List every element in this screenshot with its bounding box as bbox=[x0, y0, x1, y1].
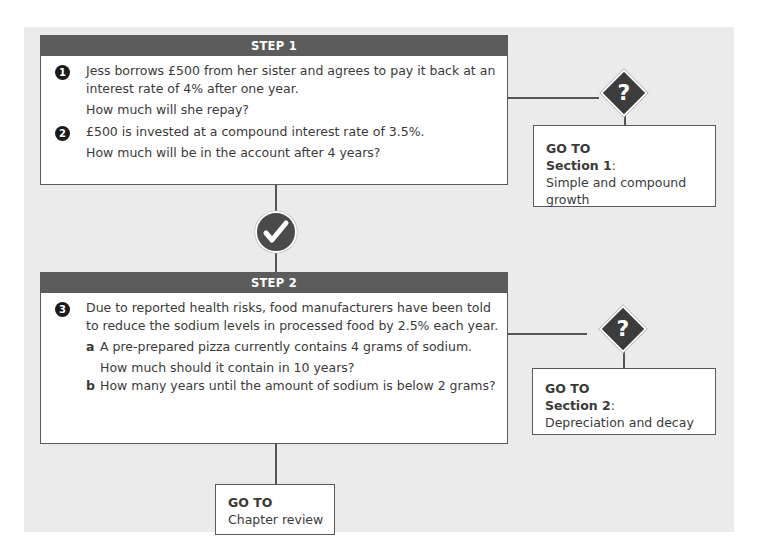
goto-section-title: Depreciation and decay bbox=[545, 414, 713, 431]
question-3-part-a: aA pre-prepared pizza currently contains… bbox=[86, 338, 504, 356]
part-a-prompt: How much should it contain in 10 years? bbox=[86, 359, 504, 377]
goto-label: GO TO bbox=[545, 380, 713, 397]
goto-section2-text: GO TO Section 2: Depreciation and decay bbox=[545, 380, 713, 431]
part-b-text: How many years until the amount of sodiu… bbox=[100, 378, 496, 393]
step1-box: STEP 1 1 Jess borrows £500 from her sist… bbox=[40, 35, 508, 185]
goto-label: GO TO bbox=[228, 494, 333, 511]
question-1-line-1: Jess borrows £500 from her sister and ag… bbox=[86, 62, 501, 80]
goto-section-title-line-2: growth bbox=[546, 191, 711, 208]
step2-header: STEP 2 bbox=[41, 273, 507, 293]
chapter-review-title: Chapter review bbox=[228, 511, 333, 528]
goto-label: GO TO bbox=[546, 140, 711, 157]
goto-section1-box[interactable]: GO TO Section 1: Simple and compound gro… bbox=[533, 125, 716, 207]
question-3-text: Due to reported health risks, food manuf… bbox=[86, 299, 504, 395]
goto-section-name: Section 1 bbox=[546, 158, 612, 173]
question-2-line-1: £500 is invested at a compound interest … bbox=[86, 123, 501, 141]
question-2-badge: 2 bbox=[55, 126, 70, 141]
question-2-text: £500 is invested at a compound interest … bbox=[86, 123, 501, 162]
question-1-badge: 1 bbox=[55, 65, 70, 80]
step2-box: STEP 2 3 Due to reported health risks, f… bbox=[40, 272, 508, 444]
part-a-text: A pre-prepared pizza currently contains … bbox=[100, 339, 472, 354]
check-mark-icon bbox=[255, 211, 297, 253]
question-2-prompt: How much will be in the account after 4 … bbox=[86, 144, 501, 162]
goto-section2-box[interactable]: GO TO Section 2: Depreciation and decay bbox=[532, 368, 716, 435]
question-mark-icon: ? bbox=[601, 307, 645, 351]
connector-step2-to-diamond2 bbox=[507, 333, 587, 335]
goto-colon: : bbox=[612, 158, 616, 173]
goto-section-title-line-1: Simple and compound bbox=[546, 174, 711, 191]
question-3-part-b: bHow many years until the amount of sodi… bbox=[86, 377, 504, 395]
connector-step2-to-final bbox=[275, 443, 277, 485]
question-3-badge: 3 bbox=[55, 302, 70, 317]
question-1-prompt: How much will she repay? bbox=[86, 101, 501, 119]
goto-chapter-review-text: GO TO Chapter review bbox=[228, 494, 333, 528]
goto-section-name: Section 2 bbox=[545, 398, 611, 413]
goto-colon: : bbox=[611, 398, 615, 413]
goto-section1-text: GO TO Section 1: Simple and compound gro… bbox=[546, 140, 711, 208]
connector-step1-to-diamond1 bbox=[507, 97, 599, 99]
question-3-line-2: to reduce the sodium levels in processed… bbox=[86, 317, 504, 335]
question-mark-icon: ? bbox=[602, 71, 646, 115]
question-3-line-1: Due to reported health risks, food manuf… bbox=[86, 299, 504, 317]
part-b-label: b bbox=[86, 377, 100, 395]
question-1-line-2: interest rate of 4% after one year. bbox=[86, 80, 501, 98]
step1-header: STEP 1 bbox=[41, 36, 507, 56]
question-1-text: Jess borrows £500 from her sister and ag… bbox=[86, 62, 501, 119]
part-a-label: a bbox=[86, 338, 100, 356]
goto-chapter-review-box[interactable]: GO TO Chapter review bbox=[215, 484, 335, 535]
